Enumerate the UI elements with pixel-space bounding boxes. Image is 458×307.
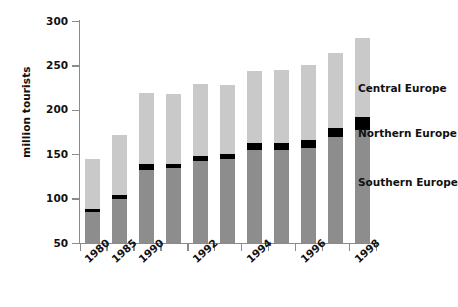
bar-segment-southern-1991	[166, 168, 181, 243]
y-tick-label: 300	[28, 15, 68, 27]
bar-segment-southern-1980	[85, 212, 100, 243]
bar-segment-central-1980	[85, 159, 100, 209]
y-tick	[72, 154, 80, 155]
bar-segment-central-1998	[355, 38, 370, 117]
y-tick-label: 250	[28, 59, 68, 71]
bar-segment-central-1994	[247, 71, 262, 143]
y-tick	[72, 110, 80, 111]
bar-segment-central-1997	[328, 53, 343, 128]
legend-item-northern-europe: Northern Europe	[358, 127, 457, 139]
legend-item-southern-europe: Southern Europe	[358, 176, 458, 188]
bar-segment-southern-1992	[193, 161, 208, 244]
bar-1993[interactable]	[220, 85, 235, 244]
bar-segment-southern-1997	[328, 137, 343, 244]
bar-1998[interactable]	[355, 38, 370, 243]
y-tick	[72, 65, 80, 66]
y-tick	[72, 21, 80, 22]
y-tick	[72, 198, 80, 199]
y-axis-line	[79, 20, 80, 244]
bar-segment-southern-1994	[247, 150, 262, 243]
bar-1992[interactable]	[193, 84, 208, 244]
chart-canvas: million tourists 50100150200250300 19801…	[0, 0, 458, 307]
bar-segment-southern-1985	[112, 199, 127, 243]
bar-segment-central-1990	[139, 93, 154, 165]
bar-segment-southern-1995	[274, 150, 289, 243]
y-tick-label: 200	[28, 103, 68, 115]
bar-segment-central-1993	[220, 85, 235, 154]
bar-segment-southern-1996	[301, 148, 316, 244]
x-tick	[349, 244, 350, 251]
bar-segment-northern-1997	[328, 128, 343, 137]
y-tick-label: 50	[28, 237, 68, 249]
legend-item-central-europe: Central Europe	[358, 82, 447, 94]
x-tick	[295, 244, 296, 251]
bar-segment-southern-1993	[220, 159, 235, 243]
bar-segment-northern-1994	[247, 143, 262, 150]
bar-segment-central-1985	[112, 135, 127, 194]
bar-1995[interactable]	[274, 70, 289, 243]
bar-segment-northern-1996	[301, 140, 316, 148]
bar-1994[interactable]	[247, 71, 262, 243]
bar-1997[interactable]	[328, 53, 343, 244]
bar-segment-northern-1995	[274, 143, 289, 150]
bar-1980[interactable]	[85, 159, 100, 243]
y-tick-label: 100	[28, 192, 68, 204]
x-tick	[80, 244, 81, 251]
bar-1985[interactable]	[112, 135, 127, 243]
bar-1991[interactable]	[166, 94, 181, 243]
bar-segment-central-1992	[193, 84, 208, 156]
x-tick	[241, 244, 242, 251]
x-tick	[187, 244, 188, 251]
bar-segment-central-1995	[274, 70, 289, 143]
bar-segment-central-1991	[166, 94, 181, 163]
bar-segment-southern-1990	[139, 170, 154, 244]
y-tick-label: 150	[28, 148, 68, 160]
bar-1996[interactable]	[301, 65, 316, 243]
bar-segment-central-1996	[301, 65, 316, 140]
bar-1990[interactable]	[139, 93, 154, 244]
